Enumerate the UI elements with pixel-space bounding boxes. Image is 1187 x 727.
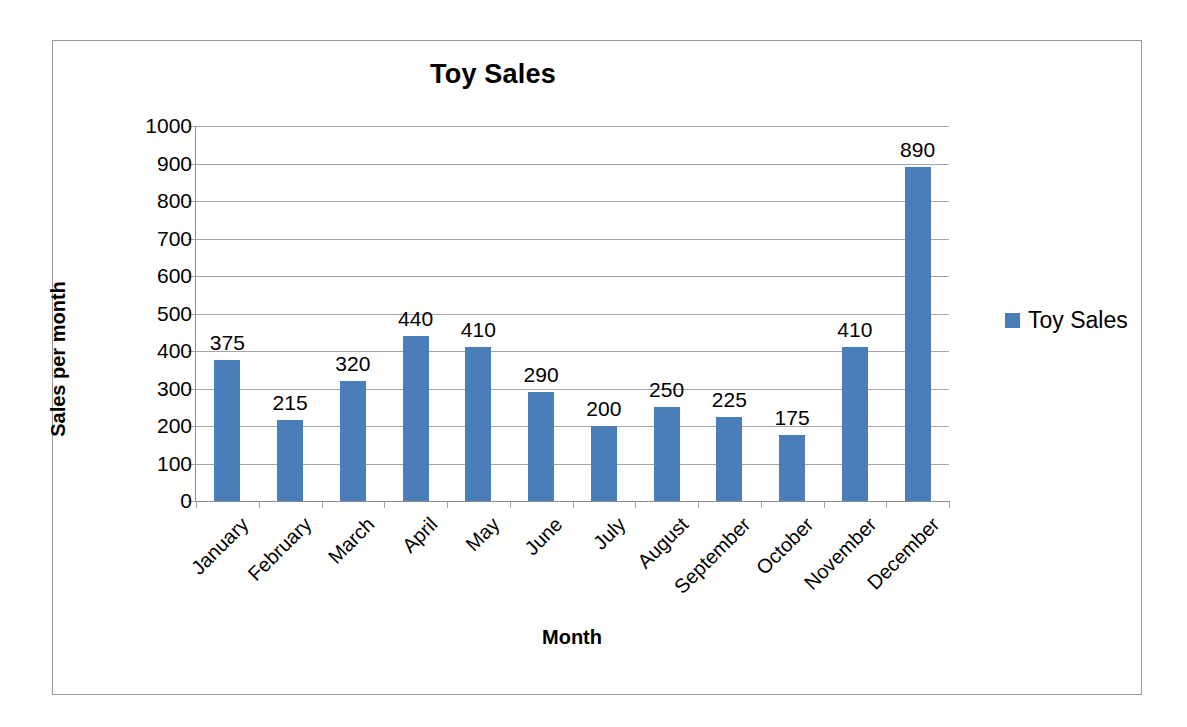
bar-rect[interactable] [779,435,805,501]
bar[interactable]: 200 [591,126,617,501]
plot-area: 01002003004005006007008009001000 3752153… [196,126,949,501]
x-axis-tick [698,502,699,508]
bar-data-label: 200 [559,398,649,419]
bar-data-label: 410 [433,319,523,340]
bar[interactable]: 890 [905,126,931,501]
bar[interactable]: 290 [528,126,554,501]
legend-swatch-icon [1005,313,1020,328]
bar[interactable]: 175 [779,126,805,501]
bar-rect[interactable] [465,347,491,501]
gridline [196,389,949,390]
bar-rect[interactable] [654,407,680,501]
bar-rect[interactable] [214,360,240,501]
chart-title: Toy Sales [53,59,933,90]
bar-rect[interactable] [716,417,742,501]
gridline [196,351,949,352]
bar[interactable]: 225 [716,126,742,501]
y-axis-title: Sales per month [47,219,70,499]
x-axis-tick [886,502,887,508]
bar-rect[interactable] [403,336,429,501]
x-axis-tick [196,502,197,508]
y-axis-tick-label: 800 [72,190,192,211]
y-axis-tick-label: 200 [72,415,192,436]
bar[interactable]: 250 [654,126,680,501]
gridline [196,276,949,277]
legend: Toy Sales [1005,309,1128,332]
gridline [196,126,949,127]
gridline [196,164,949,165]
y-axis-tick-label: 700 [72,228,192,249]
gridline [196,464,949,465]
bar-data-label: 410 [810,319,900,340]
y-axis-tick-label: 300 [72,378,192,399]
bar-data-label: 375 [182,332,272,353]
x-axis-tick [573,502,574,508]
bar-rect[interactable] [340,381,366,501]
legend-label: Toy Sales [1028,309,1128,332]
y-axis-tick-label: 500 [72,303,192,324]
x-axis-tick [322,502,323,508]
x-axis-tick [761,502,762,508]
bar[interactable]: 320 [340,126,366,501]
y-axis-tick-label: 1000 [72,115,192,136]
chart-frame: Toy Sales Sales per month Month 01002003… [52,40,1142,695]
y-axis-tick-label: 0 [72,490,192,511]
x-axis-tick [949,502,950,508]
bar-data-label: 890 [873,139,963,160]
bar-rect[interactable] [905,167,931,501]
bar[interactable]: 410 [465,126,491,501]
bar-data-label: 175 [747,407,837,428]
bar[interactable]: 410 [842,126,868,501]
bar-data-label: 320 [308,353,398,374]
x-axis-tick [259,502,260,508]
bar-rect[interactable] [591,426,617,501]
y-axis-tick-label: 100 [72,453,192,474]
y-axis-tick-label: 600 [72,265,192,286]
bar-rect[interactable] [842,347,868,501]
y-axis-tick-label: 900 [72,153,192,174]
gridline [196,239,949,240]
x-axis-tick [635,502,636,508]
x-axis-tick [447,502,448,508]
gridline [196,314,949,315]
y-axis-tick-label: 400 [72,340,192,361]
x-axis-tick [384,502,385,508]
bar-data-label: 290 [496,364,586,385]
bar[interactable]: 215 [277,126,303,501]
bar-rect[interactable] [277,420,303,501]
x-axis-tick [510,502,511,508]
bar[interactable]: 440 [403,126,429,501]
bar-rect[interactable] [528,392,554,501]
x-axis-tick [824,502,825,508]
bar-data-label: 215 [245,392,335,413]
bar[interactable]: 375 [214,126,240,501]
gridline [196,201,949,202]
